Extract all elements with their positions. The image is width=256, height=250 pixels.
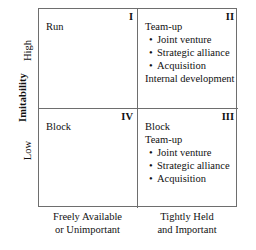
quadrant-2: II Team-up Joint venture Strategic allia… [138, 9, 238, 109]
y-axis-tick-high: High [22, 21, 33, 81]
x-axis-label-right-line1: Tightly Held [137, 210, 237, 223]
quadrant-2-footer: Internal development [145, 72, 232, 85]
x-axis-label-left: Freely Available or Unimportant [38, 210, 137, 237]
x-axis-label-right: Tightly Held and Important [137, 210, 237, 237]
quadrant-1: I Run [39, 9, 138, 109]
quadrant-1-heading: Run [46, 20, 131, 33]
quadrant-3-bullet-3: Acquisition [157, 172, 232, 185]
imitability-matrix-figure: Imitability High Low I Run II Team-up Jo… [0, 0, 256, 250]
quadrant-2-numeral: II [226, 12, 234, 23]
quadrant-2-bullet-1: Joint venture [157, 33, 232, 46]
quadrant-3-bullet-2: Strategic alliance [157, 159, 232, 172]
x-axis-labels: Freely Available or Unimportant Tightly … [38, 210, 237, 237]
quadrant-3-heading: Block [145, 120, 232, 133]
quadrant-3-bullet-1: Joint venture [157, 146, 232, 159]
x-axis-label-left-line1: Freely Available [38, 210, 137, 223]
quadrant-4-heading: Block [46, 120, 131, 133]
quadrant-2-bullet-list: Joint venture Strategic alliance Acquisi… [145, 33, 232, 72]
quadrant-1-numeral: I [129, 12, 133, 23]
quadrant-2-bullet-3: Acquisition [157, 59, 232, 72]
quadrant-4: IV Block [39, 109, 138, 208]
quadrant-3: III Block Team-up Joint venture Strategi… [138, 109, 238, 208]
y-axis-tick-low: Low [22, 121, 33, 181]
quadrant-3-numeral: III [222, 112, 234, 123]
x-axis-label-right-line2: and Important [137, 223, 237, 236]
quadrant-2-heading: Team-up [145, 20, 232, 33]
quadrant-3-bullet-list: Joint venture Strategic alliance Acquisi… [145, 146, 232, 185]
quadrant-3-subheading: Team-up [145, 133, 232, 146]
x-axis-label-left-line2: or Unimportant [38, 223, 137, 236]
matrix-grid: I Run II Team-up Joint venture Strategic… [38, 8, 237, 207]
quadrant-2-bullet-2: Strategic alliance [157, 46, 232, 59]
quadrant-4-numeral: IV [121, 112, 133, 123]
